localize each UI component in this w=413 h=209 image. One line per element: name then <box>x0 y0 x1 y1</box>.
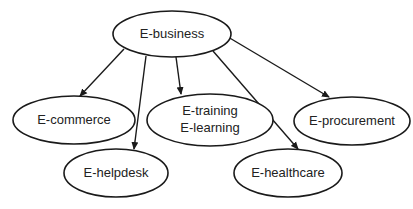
node-ebusiness: E-business <box>113 11 231 57</box>
node-ebusiness-label: E-business <box>140 26 205 41</box>
edge-ebusiness-ecommerce <box>80 49 124 96</box>
edge-ebusiness-eprocurement <box>228 37 329 97</box>
node-ehealthcare-label: E-healthcare <box>251 165 325 180</box>
node-etraining-label-line2: E-learning <box>180 120 239 135</box>
node-etraining: E-training E-learning <box>147 94 273 146</box>
node-ecommerce-label: E-commerce <box>37 112 111 127</box>
node-ehelpdesk: E-helpdesk <box>64 149 168 197</box>
node-etraining-label-line1: E-training <box>182 103 238 118</box>
edge-ebusiness-etraining <box>176 57 181 94</box>
node-eprocurement: E-procurement <box>294 97 410 145</box>
node-ehealthcare: E-healthcare <box>234 149 342 197</box>
node-ecommerce: E-commerce <box>13 96 135 144</box>
node-eprocurement-label: E-procurement <box>309 113 395 128</box>
diagram-canvas: E-business E-commerce E-training E-learn… <box>0 0 413 209</box>
edge-ebusiness-ehelpdesk <box>134 56 146 149</box>
node-ehelpdesk-label: E-helpdesk <box>83 165 149 180</box>
